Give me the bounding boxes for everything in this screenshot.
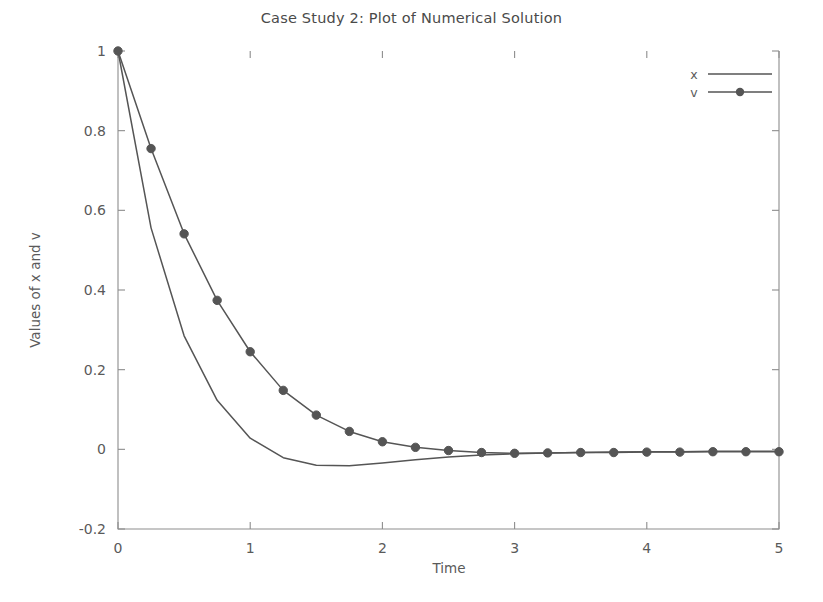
data-point-marker-v: [114, 47, 122, 55]
y-axis-title: Values of x and v: [27, 232, 43, 348]
data-point-marker-v: [775, 448, 783, 456]
data-point-marker-v: [312, 411, 320, 419]
data-point-marker-v: [411, 443, 419, 451]
data-point-marker-v: [378, 438, 386, 446]
y-tick-label: -0.2: [79, 521, 106, 537]
y-tick-label: 0.6: [84, 202, 106, 218]
data-point-marker-v: [510, 449, 518, 457]
series-group: [114, 47, 783, 466]
tick-labels-group: -0.200.20.40.60.81012345: [79, 43, 784, 556]
data-point-marker-v: [345, 427, 353, 435]
series-line-v: [118, 51, 779, 453]
plot-canvas: -0.200.20.40.60.81012345 xv Time Values …: [0, 0, 823, 602]
legend-label-v: v: [690, 85, 698, 100]
x-tick-label: 3: [510, 540, 519, 556]
data-point-marker-v: [742, 448, 750, 456]
legend-label-x: x: [690, 67, 697, 82]
data-point-marker-v: [246, 348, 254, 356]
data-point-marker-v: [543, 449, 551, 457]
y-tick-label: 0.4: [84, 282, 106, 298]
legend-group: xv: [690, 67, 772, 100]
legend-marker-v: [736, 88, 744, 96]
y-tick-label: 0.2: [84, 362, 106, 378]
x-axis-title: Time: [431, 560, 465, 576]
data-point-marker-v: [213, 296, 221, 304]
data-point-marker-v: [279, 386, 287, 394]
y-tick-label: 0.8: [84, 123, 106, 139]
data-point-marker-v: [709, 448, 717, 456]
x-tick-label: 5: [775, 540, 784, 556]
data-point-marker-v: [444, 446, 452, 454]
data-point-marker-v: [477, 448, 485, 456]
chart-page: Case Study 2: Plot of Numerical Solution…: [0, 0, 823, 602]
y-tick-label: 1: [97, 43, 106, 59]
x-tick-label: 2: [378, 540, 387, 556]
data-point-marker-v: [180, 230, 188, 238]
data-point-marker-v: [577, 448, 585, 456]
data-point-marker-v: [610, 448, 618, 456]
x-tick-label: 0: [114, 540, 123, 556]
x-tick-label: 4: [642, 540, 651, 556]
series-line-x: [118, 51, 779, 466]
data-point-marker-v: [676, 448, 684, 456]
y-tick-label: 0: [97, 441, 106, 457]
data-point-marker-v: [643, 448, 651, 456]
x-tick-label: 1: [246, 540, 255, 556]
data-point-marker-v: [147, 144, 155, 152]
